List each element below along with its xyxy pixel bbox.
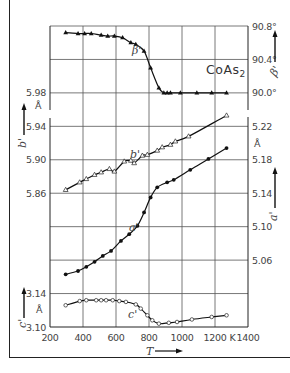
data-point (188, 168, 192, 172)
x-tick-label: 600 (107, 332, 124, 343)
data-point (107, 166, 112, 170)
data-series (63, 30, 229, 325)
right-beta-tick-label: 90.8° (252, 21, 276, 32)
data-point (157, 85, 162, 89)
c-series-label: c' (128, 308, 137, 321)
data-point (165, 180, 169, 184)
data-point (225, 313, 229, 317)
data-point (64, 303, 68, 307)
data-point (167, 321, 171, 325)
data-point (101, 254, 105, 258)
data-point (142, 211, 146, 215)
left-b-tick-label: 5.94 (26, 121, 46, 132)
c-unit-label: Å (36, 304, 43, 315)
data-point (139, 307, 143, 311)
left-c-tick-label: 3.14 (26, 288, 46, 299)
right-a-tick-label: 5.06 (252, 255, 272, 266)
right-a-tick-label: 5.14 (252, 188, 272, 199)
right-beta-tick-label: 90.4° (252, 54, 276, 65)
data-point (190, 318, 194, 322)
data-point (93, 260, 97, 264)
x-tick-label: 1200 (204, 332, 227, 343)
data-point (78, 299, 82, 303)
data-point (175, 320, 179, 324)
data-point (134, 303, 138, 307)
right-a-tick-label: 5.22 (252, 121, 272, 132)
data-point (63, 30, 68, 34)
data-point (207, 157, 211, 161)
data-point (124, 300, 128, 304)
right-a-tick-label: 5.10 (252, 221, 272, 232)
x-tick-label: 800 (140, 332, 157, 343)
data-point (76, 269, 80, 273)
x-tick-label: 400 (74, 332, 91, 343)
data-point (85, 298, 89, 302)
b-axis-label: b' (16, 138, 29, 148)
b-series-label: b' (130, 148, 140, 161)
left-b-tick-label: 5.90 (26, 154, 46, 165)
right-a-tick-label: 5.18 (252, 154, 272, 165)
a-axis-label: a' (267, 211, 280, 221)
x-unit-label: K (230, 332, 237, 343)
a-axis-arrow-icon (273, 167, 278, 208)
left-c-tick-label: 3.10 (26, 322, 46, 333)
x-tick-label: 200 (41, 332, 58, 343)
data-point (119, 239, 123, 243)
x-axis-arrow-icon (155, 349, 183, 354)
data-point (151, 319, 155, 323)
data-point (210, 315, 214, 319)
right-beta-tick-label: 90.0° (252, 87, 276, 98)
series-line (66, 148, 227, 274)
lattice-parameter-chart: 200400600800100012001400K5.985.945.905.8… (0, 0, 290, 373)
x-axis-label: T (146, 345, 155, 358)
c-axis-label: c' (16, 319, 29, 328)
data-point (99, 298, 103, 302)
x-tick-label: 1000 (171, 332, 194, 343)
a-unit-label: Å (254, 138, 261, 149)
beta-axis-label: β' (267, 64, 283, 79)
beta-series-label: β' (131, 44, 141, 57)
data-point (225, 146, 229, 150)
chart-title: CoAs2 (206, 62, 246, 79)
data-point (109, 249, 113, 253)
data-point (111, 298, 115, 302)
data-point (172, 178, 176, 182)
data-point (118, 299, 122, 303)
series-line (66, 300, 227, 324)
b-unit-label: Å (35, 100, 42, 111)
data-point (157, 322, 161, 326)
data-point (149, 196, 153, 200)
data-point (64, 272, 68, 276)
left-b-tick-label: 5.98 (26, 87, 46, 98)
data-point (146, 313, 150, 317)
data-point (224, 113, 229, 117)
left-b-tick-label: 5.86 (26, 188, 46, 199)
a-series-label: a' (129, 221, 139, 234)
data-point (155, 185, 159, 189)
data-point (94, 298, 98, 302)
data-point (104, 298, 108, 302)
series-line (66, 33, 227, 94)
data-point (84, 265, 88, 269)
x-tick-label: 1400 (237, 332, 260, 343)
